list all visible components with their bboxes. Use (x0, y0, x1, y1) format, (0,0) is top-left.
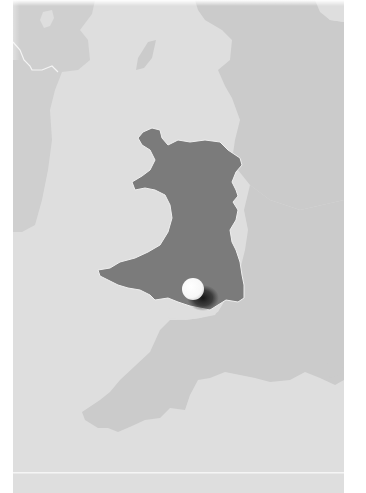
left-fade (0, 0, 20, 60)
frame-divider-line (13, 472, 344, 474)
locator-map (13, 0, 344, 493)
map-svg (13, 0, 344, 493)
location-marker (182, 278, 204, 300)
top-fade (0, 0, 366, 6)
